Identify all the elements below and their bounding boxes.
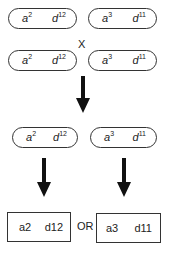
allele-d-label: d12 [53,131,67,143]
allele-a-label: a2 [22,54,32,66]
allele-d-label: d11 [133,54,146,66]
allele-a-label: a3 [104,131,114,143]
down-arrow-icon [75,76,91,114]
cross-symbol: X [78,38,85,50]
parent-chromosome-1b: a2 d12 [8,50,77,71]
parent-chromosome-2a: a3 d11 [88,8,157,29]
allele-a-label: a3 [102,12,112,24]
down-arrow-icon [36,158,52,198]
allele-d-label: d11 [133,131,146,143]
down-arrow-icon [116,158,132,198]
allele-a-label: a2 [26,131,36,143]
allele-a-label: a2 [19,221,31,233]
allele-d-label: d11 [134,222,152,234]
result-box-2: a3 d11 [96,213,161,243]
allele-a-label: a2 [22,12,32,24]
allele-a-label: a3 [106,222,118,234]
gamete-chromosome-1: a2 d12 [12,127,78,148]
result-box-1: a2 d12 [7,212,71,242]
allele-d-label: d12 [52,54,66,66]
allele-a-label: a3 [102,54,112,66]
or-label: OR [77,220,94,232]
allele-d-label: d11 [133,12,146,24]
gamete-chromosome-2: a3 d11 [90,127,157,148]
parent-chromosome-1a: a2 d12 [8,8,77,29]
parent-chromosome-2b: a3 d11 [88,50,157,71]
allele-d-label: d12 [52,12,66,24]
allele-d-label: d12 [45,221,63,233]
